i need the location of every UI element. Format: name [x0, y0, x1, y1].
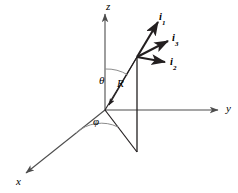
i2-subscript: 2 [173, 64, 177, 72]
unit-vector-i2-label: i2 [170, 57, 176, 70]
unit-vector-i3-label: i3 [172, 33, 178, 46]
theta-arc [105, 69, 128, 75]
z-axis-label: z [106, 1, 110, 12]
theta-angle-label: θ [99, 75, 104, 86]
spherical-coordinate-figure: x y z θ φ R i1 i3 i2 [0, 0, 238, 193]
phi-angle-label: φ [93, 116, 99, 127]
projection-line [105, 110, 137, 152]
y-axis-label: y [226, 103, 231, 114]
i3-subscript: 3 [175, 40, 179, 48]
i1-subscript: 1 [162, 19, 166, 27]
x-axis-label: x [16, 176, 21, 187]
unit-vector-i1-label: i1 [159, 12, 165, 25]
radial-vector-label: R [117, 78, 124, 89]
coordinate-diagram-svg [0, 0, 238, 193]
unit-vector-i2-arrow [137, 57, 165, 62]
